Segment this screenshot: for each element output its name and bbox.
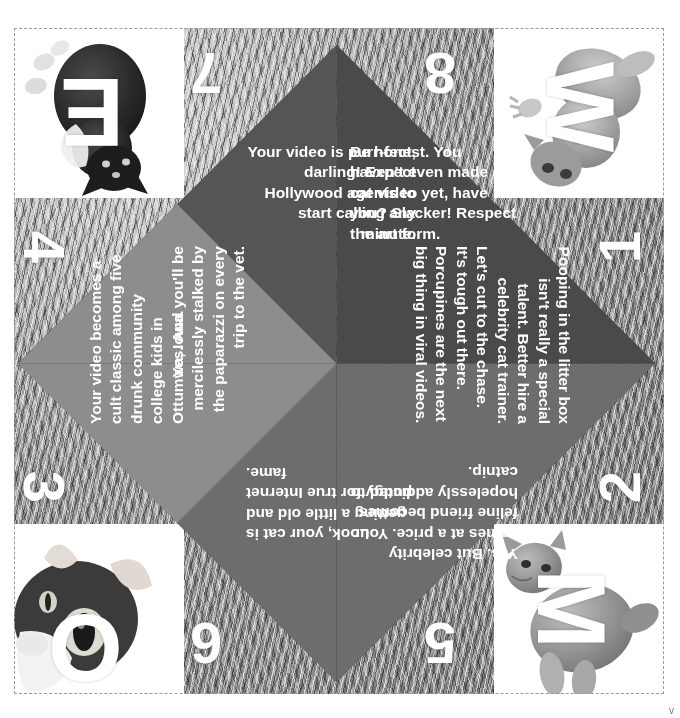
page-corner-mark: v <box>669 705 674 716</box>
fortune-text-2: Let's cut to the chase. It's tough out t… <box>410 246 492 424</box>
fortune-text-3: Yes. And you'll be mercilessly stalked b… <box>168 246 250 424</box>
fortune-text-1: Pooping in the litter box isn't really a… <box>492 246 574 424</box>
fortune-teller-page: E W <box>0 0 680 718</box>
fortune-text-8: Be honest. You haven't even made a cat v… <box>350 142 518 244</box>
fortune-text-5: Yes. But celebrity comes at a price. You… <box>350 462 518 564</box>
